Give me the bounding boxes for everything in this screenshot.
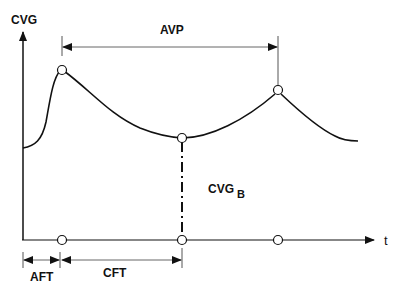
- trough-marker: [178, 134, 187, 143]
- peak-1-marker: [58, 66, 67, 75]
- peak-2-marker: [274, 86, 283, 95]
- cvg-timing-diagram: [0, 0, 400, 295]
- time-marker-1: [58, 236, 67, 245]
- avp-label: AVP: [160, 24, 184, 36]
- y-axis-label: CVG: [11, 14, 37, 26]
- x-axis-label: t: [384, 234, 388, 247]
- aft-label: AFT: [30, 271, 53, 283]
- baseline-label: CVGB: [208, 183, 245, 195]
- cvg-curve: [23, 71, 358, 148]
- time-marker-3: [274, 236, 283, 245]
- baseline-label-subscript: B: [237, 188, 245, 200]
- cft-label: CFT: [103, 267, 126, 279]
- time-marker-2: [178, 236, 187, 245]
- baseline-label-main: CVG: [208, 182, 234, 196]
